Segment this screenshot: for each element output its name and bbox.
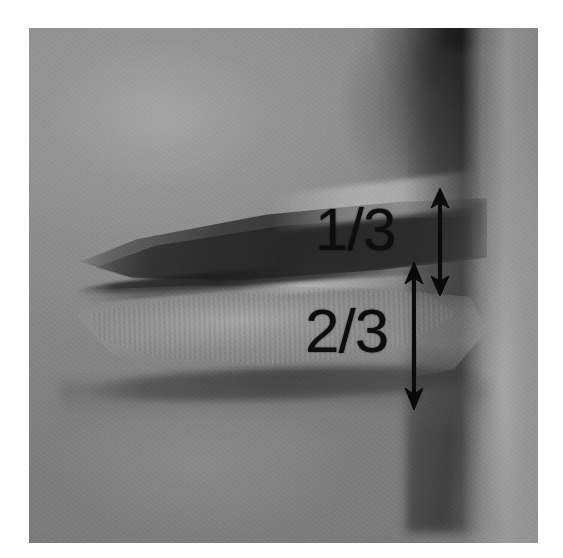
clinical-photograph: 1/3 2/3 (29, 28, 538, 543)
annotation-label-one-third: 1/3 (315, 200, 395, 260)
double-headed-arrow-lower-thirds (397, 260, 431, 412)
annotation-overlay: 1/3 2/3 (29, 28, 538, 543)
figure-container: 1/3 2/3 (0, 0, 563, 558)
annotation-label-two-thirds: 2/3 (305, 300, 388, 362)
